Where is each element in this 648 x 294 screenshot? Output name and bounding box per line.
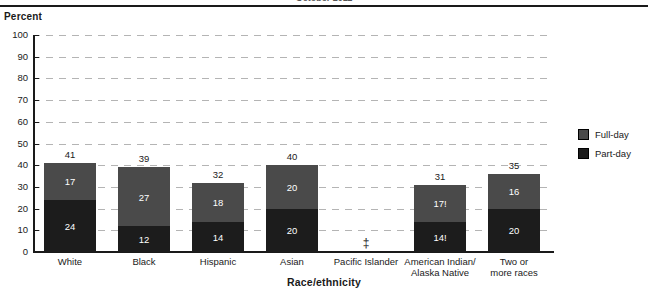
bar-total-label: 32 (192, 169, 244, 180)
bar-segment-part-day[interactable]: 20 (488, 209, 540, 252)
bar-segment-part-day[interactable]: 14 (192, 222, 244, 252)
bar-segment-value-part-day: 20 (488, 225, 540, 236)
legend-item[interactable]: Full-day (578, 128, 631, 140)
y-axis-tick-label: 10 (2, 225, 28, 234)
legend-swatch-icon (578, 129, 589, 140)
bar-segment-part-day[interactable]: 24 (44, 200, 96, 252)
bar-segment-value-full-day: 16 (488, 186, 540, 197)
bar-group[interactable]: 202040 (266, 35, 318, 252)
plot-area: 241741122739141832202040‡14!17!31201635 (33, 35, 553, 252)
y-axis-tick-label: 60 (2, 117, 28, 126)
bar-segment-value-part-day: 24 (44, 220, 96, 231)
y-axis-tick-label: 70 (2, 95, 28, 104)
bar-group[interactable]: ‡ (340, 35, 392, 252)
bar-segment-value-part-day: 14 (192, 231, 244, 242)
clipped-header-title: October 2011 (0, 0, 648, 2)
bar-segment-value-full-day: 20 (266, 181, 318, 192)
y-axis-tick-label: 30 (2, 182, 28, 191)
header-rule (0, 5, 648, 7)
bar-segment-full-day[interactable]: 18 (192, 183, 244, 222)
bar-total-label: 35 (488, 160, 540, 171)
y-axis-tick-label: 50 (2, 139, 28, 148)
y-axis-title: Percent (4, 11, 42, 22)
bar-segment-full-day[interactable]: 17! (414, 185, 466, 222)
y-axis-tick-label: 20 (2, 204, 28, 213)
bar-total-label: 39 (118, 153, 170, 164)
bar-segment-part-day[interactable]: 20 (266, 209, 318, 252)
legend-item[interactable]: Part-day (578, 147, 631, 159)
y-axis-tick-label: 90 (2, 52, 28, 61)
bar-group[interactable]: 122739 (118, 35, 170, 252)
y-axis-tick-label: 40 (2, 160, 28, 169)
category-label-line: Two or (466, 256, 562, 267)
bar-segment-value-full-day: 27 (118, 191, 170, 202)
bar-segment-full-day[interactable]: 16 (488, 174, 540, 209)
x-axis-title: Race/ethnicity (0, 276, 648, 288)
bar-total-label: 40 (266, 151, 318, 162)
y-axis-tick (33, 252, 39, 253)
legend-item-label: Part-day (595, 148, 631, 159)
bar-group[interactable]: 241741 (44, 35, 96, 252)
bar-segment-value-part-day: 12 (118, 233, 170, 244)
bar-segment-full-day[interactable]: 27 (118, 167, 170, 226)
y-axis-tick-label: 80 (2, 73, 28, 82)
bar-total-label: 41 (44, 149, 96, 160)
bar-segment-value-part-day: 20 (266, 225, 318, 236)
bar-segment-value-full-day: 17! (414, 198, 466, 209)
suppressed-data-marker: ‡ (340, 236, 392, 250)
bar-segment-value-full-day: 17 (44, 176, 96, 187)
bar-group[interactable]: 141832 (192, 35, 244, 252)
bar-segment-value-part-day: 14! (414, 231, 466, 242)
bar-segment-value-full-day: 18 (192, 197, 244, 208)
bar-group[interactable]: 14!17!31 (414, 35, 466, 252)
legend: Full-dayPart-day (578, 128, 631, 166)
y-axis-tick-label: 100 (2, 30, 28, 39)
bar-segment-full-day[interactable]: 20 (266, 165, 318, 208)
bar-total-label: 31 (414, 171, 466, 182)
bar-segment-part-day[interactable]: 14! (414, 222, 466, 252)
y-axis-tick-label: 0 (2, 247, 28, 256)
bar-segment-full-day[interactable]: 17 (44, 163, 96, 200)
x-axis-category-label: Two ormore races (466, 256, 562, 278)
legend-item-label: Full-day (595, 129, 629, 140)
legend-swatch-icon (578, 148, 589, 159)
bar-segment-part-day[interactable]: 12 (118, 226, 170, 252)
bar-group[interactable]: 201635 (488, 35, 540, 252)
